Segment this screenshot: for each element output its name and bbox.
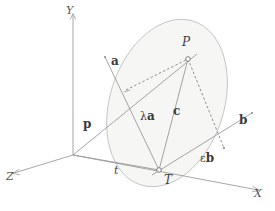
vector-b-tip <box>251 112 253 114</box>
axis-label-x: X <box>254 188 262 199</box>
point-T-marker <box>157 168 162 173</box>
axis-z-line <box>14 155 73 173</box>
axis-label-y: Y <box>66 5 73 16</box>
geometry-figure: Y Z X P T a b c p λa εb t <box>0 0 275 211</box>
scaled-vector-label-epsilon-b: εb <box>200 152 214 164</box>
point-label-T: T <box>164 174 172 186</box>
vector-label-p: p <box>83 118 91 130</box>
vector-a-in-scaled: a <box>147 109 155 123</box>
axis-label-z: Z <box>6 171 14 182</box>
point-P-marker <box>186 57 191 62</box>
geometry-canvas <box>0 0 275 211</box>
scaled-vector-label-lambda-a: λa <box>140 110 155 122</box>
vector-label-c: c <box>173 105 180 117</box>
vector-a-tip <box>104 56 106 58</box>
point-b-endpoint-marker <box>223 147 225 149</box>
parameter-label-t: t <box>114 165 118 176</box>
vector-label-b: b <box>239 114 247 126</box>
vector-b-in-scaled: b <box>206 151 214 165</box>
point-label-P: P <box>182 36 190 48</box>
vector-label-a: a <box>111 55 119 67</box>
scalar-lambda: λ <box>140 110 147 123</box>
